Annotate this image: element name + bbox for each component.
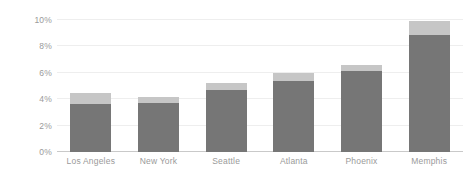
- bar-segment-base[interactable]: [138, 103, 179, 152]
- bar-segment-base[interactable]: [206, 90, 247, 152]
- bar-segment-top[interactable]: [341, 65, 382, 72]
- x-tick-label: Atlanta: [260, 156, 328, 166]
- x-tick-label: Phoenix: [328, 156, 396, 166]
- bar-segment-base[interactable]: [409, 35, 450, 152]
- x-axis: Los AngelesNew YorkSeattleAtlantaPhoenix…: [57, 156, 463, 176]
- x-tick-label: Seattle: [192, 156, 260, 166]
- bar-group[interactable]: [70, 93, 111, 152]
- bar-group[interactable]: [138, 97, 179, 152]
- x-tick-label: Memphis: [395, 156, 463, 166]
- bar-segment-base[interactable]: [341, 71, 382, 152]
- bar-segment-top[interactable]: [273, 73, 314, 81]
- bar-segment-top[interactable]: [70, 93, 111, 105]
- bar-segment-base[interactable]: [273, 81, 314, 152]
- y-axis: 0%2%4%6%8%10%: [0, 20, 52, 152]
- y-tick-label: 10%: [6, 15, 52, 25]
- bar-group[interactable]: [341, 65, 382, 152]
- y-tick-label: 6%: [6, 68, 52, 78]
- bar-segment-top[interactable]: [138, 97, 179, 104]
- bar-segment-top[interactable]: [409, 21, 450, 34]
- y-tick-label: 8%: [6, 41, 52, 51]
- bar-segment-base[interactable]: [70, 104, 111, 152]
- y-tick-label: 2%: [6, 121, 52, 131]
- bar-chart: 0%2%4%6%8%10% Los AngelesNew YorkSeattle…: [0, 0, 471, 184]
- bars-layer: [57, 20, 463, 152]
- bar-group[interactable]: [273, 73, 314, 152]
- bar-group[interactable]: [409, 21, 450, 152]
- bar-group[interactable]: [206, 83, 247, 152]
- y-tick-label: 4%: [6, 94, 52, 104]
- bar-segment-top[interactable]: [206, 83, 247, 90]
- x-tick-label: New York: [125, 156, 193, 166]
- y-tick-label: 0%: [6, 147, 52, 157]
- x-tick-label: Los Angeles: [57, 156, 125, 166]
